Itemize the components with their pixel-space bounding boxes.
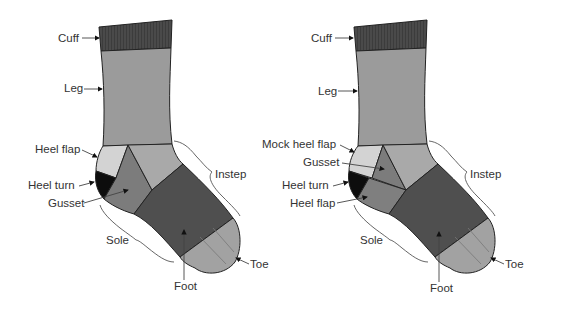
label-gusset: Gusset	[48, 197, 85, 209]
label-heel-flap: Heel flap	[290, 197, 335, 209]
label-instep: Instep	[470, 168, 501, 180]
right-leg-region	[356, 48, 427, 146]
left-cuff-region	[99, 20, 172, 51]
label-gusset: Gusset	[303, 156, 340, 168]
label-instep: Instep	[215, 168, 246, 180]
label-foot: Foot	[430, 282, 454, 294]
right-cuff-region	[354, 20, 427, 51]
left-sock: Cuff Leg Heel flap Heel turn Gusset Inst…	[28, 20, 269, 292]
right-sock: Cuff Leg Mock heel flap Gusset Heel turn…	[262, 20, 524, 294]
label-leg: Leg	[318, 85, 337, 97]
label-toe: Toe	[250, 258, 269, 270]
label-cuff: Cuff	[311, 32, 333, 44]
label-cuff: Cuff	[58, 32, 80, 44]
label-heel-flap: Heel flap	[35, 143, 80, 155]
label-toe: Toe	[505, 258, 524, 270]
label-sole: Sole	[360, 234, 383, 246]
label-heel-turn: Heel turn	[28, 179, 75, 191]
label-mock-heel-flap: Mock heel flap	[262, 138, 336, 150]
label-foot: Foot	[174, 280, 198, 292]
label-leg: Leg	[64, 82, 83, 94]
left-leg-region	[101, 48, 172, 146]
label-heel-turn: Heel turn	[282, 179, 329, 191]
label-sole: Sole	[106, 234, 129, 246]
